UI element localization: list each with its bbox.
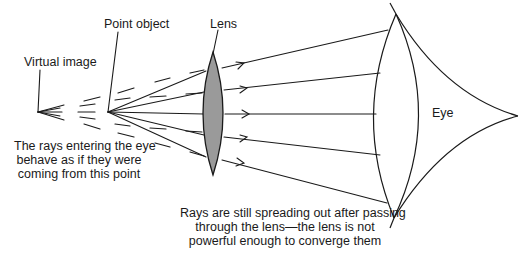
spreading-note-line-2: through the lens—the lens is not (180, 220, 390, 234)
spreading-note-line-3: powerful enough to converge them (180, 234, 390, 248)
spreading-note-line-1: Rays are still spreading out after passi… (180, 206, 390, 220)
virtual-image-label: Virtual image (24, 55, 97, 69)
lens-label: Lens (210, 17, 237, 31)
virtual-image-leader (38, 70, 40, 112)
spreading-note: Rays are still spreading out after passi… (180, 206, 390, 248)
rays-note-line-3: coming from this point (14, 167, 144, 181)
eye-lens-front (373, 14, 396, 218)
rays-note: The rays entering the eye behave as if t… (14, 139, 144, 181)
rays-note-line-2: behave as if they were (14, 153, 144, 167)
virtual-image-fan (38, 105, 64, 120)
eye-upper-wall (396, 14, 518, 116)
point-object-label: Point object (104, 17, 169, 31)
eye-label: Eye (432, 106, 454, 120)
refracted-rays (222, 30, 388, 203)
rays-note-line-1: The rays entering the eye (14, 139, 144, 153)
lens-leader (213, 30, 218, 54)
